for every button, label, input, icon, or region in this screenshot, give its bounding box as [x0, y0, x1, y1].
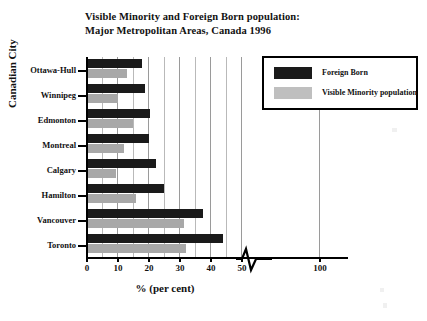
bar-group — [88, 134, 350, 157]
bar-foreign-born — [88, 59, 142, 68]
y-tick-3 — [78, 145, 86, 147]
legend-swatch-foreign-born — [274, 67, 312, 79]
x-tick-100 — [319, 257, 321, 262]
bar-foreign-born — [88, 159, 156, 168]
bar-visible-minority — [88, 169, 116, 178]
page-artifact — [392, 128, 397, 132]
y-axis-title: Canadian City — [6, 39, 18, 108]
x-tick-label-0: 0 — [85, 263, 90, 273]
x-tick-10 — [117, 257, 119, 262]
legend-label-foreign-born: Foreign Born — [322, 68, 368, 77]
bar-visible-minority — [88, 119, 133, 128]
axis-break-zigzag-icon — [236, 243, 272, 277]
bar-foreign-born — [88, 234, 223, 243]
y-tick-1 — [78, 95, 86, 97]
page-artifact — [383, 303, 387, 308]
bar-visible-minority — [88, 69, 127, 78]
y-tick-6 — [78, 220, 86, 222]
bar-foreign-born — [88, 184, 164, 193]
x-tick-20 — [148, 257, 150, 262]
x-tick-30 — [179, 257, 181, 262]
page-artifact — [380, 288, 384, 292]
x-tick-label-30: 30 — [176, 263, 185, 273]
legend-swatch-visible-minority — [274, 87, 312, 99]
y-tick-0 — [78, 70, 86, 72]
chart-legend: Foreign Born Visible Minority population — [262, 56, 418, 110]
bar-visible-minority — [88, 94, 118, 103]
bar-group — [88, 234, 350, 257]
y-tick-4 — [78, 170, 86, 172]
bar-visible-minority — [88, 244, 186, 253]
x-tick-label-20: 20 — [145, 263, 154, 273]
y-axis-label-winnipeg: Winnipeg — [41, 90, 76, 100]
y-axis-label-hamilton: Hamilton — [42, 190, 76, 200]
x-tick-label-100: 100 — [313, 263, 327, 273]
y-tick-5 — [78, 195, 86, 197]
bar-visible-minority — [88, 194, 136, 203]
x-tick-0 — [86, 257, 88, 262]
bar-group — [88, 159, 350, 182]
bar-foreign-born — [88, 109, 150, 118]
x-axis-line — [86, 257, 348, 259]
chart-title: Visible Minority and Foreign Born popula… — [85, 10, 375, 38]
chart-title-line-2: Major Metropolitan Areas, Canada 1996 — [85, 24, 375, 38]
x-tick-40 — [210, 257, 212, 262]
bar-foreign-born — [88, 134, 149, 143]
y-tick-7 — [78, 245, 86, 247]
y-axis-label-toronto: Toronto — [47, 240, 76, 250]
x-tick-label-10: 10 — [114, 263, 123, 273]
y-axis-label-montreal: Montreal — [42, 140, 76, 150]
y-axis-label-calgary: Calgary — [47, 165, 76, 175]
y-axis-label-edmonton: Edmonton — [38, 115, 76, 125]
bar-group — [88, 209, 350, 232]
legend-label-visible-minority: Visible Minority population — [322, 88, 417, 97]
bar-group — [88, 109, 350, 132]
y-tick-2 — [78, 120, 86, 122]
chart-figure: Visible Minority and Foreign Born popula… — [0, 0, 427, 321]
y-axis-label-ottawa-hull: Ottawa-Hull — [30, 65, 76, 75]
chart-title-line-1: Visible Minority and Foreign Born popula… — [85, 10, 375, 24]
bar-foreign-born — [88, 84, 145, 93]
y-axis-label-vancouver: Vancouver — [37, 215, 76, 225]
bar-foreign-born — [88, 209, 203, 218]
bar-group — [88, 184, 350, 207]
bar-visible-minority — [88, 144, 124, 153]
x-axis-title: % (per cent) — [0, 282, 330, 294]
bar-visible-minority — [88, 219, 184, 228]
x-tick-label-40: 40 — [207, 263, 216, 273]
